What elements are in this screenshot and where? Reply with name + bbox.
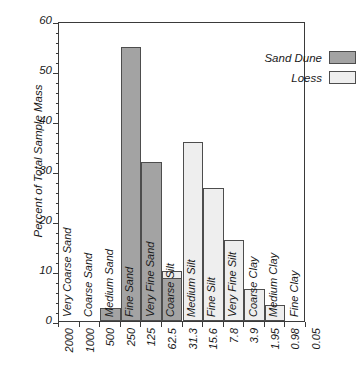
y-tick-minor	[56, 153, 60, 154]
legend-label-sand-dune: Sand Dune	[264, 52, 322, 64]
x-tick-label-250: 250	[125, 328, 137, 346]
y-tick-minor	[56, 213, 60, 214]
category-label-very-fine-silt: Very Fine Silt	[226, 252, 238, 317]
y-tick-minor	[56, 203, 60, 204]
y-tick-minor	[56, 103, 60, 104]
x-tick-label-2000: 2000	[63, 328, 75, 352]
y-tick-minor	[56, 33, 60, 34]
y-tick-major-40	[53, 123, 59, 124]
y-tick-minor	[56, 113, 60, 114]
x-tick-label-31.3: 31.3	[187, 328, 199, 349]
legend-label-loess: Loess	[291, 72, 322, 84]
y-tick-minor	[56, 43, 60, 44]
x-tick-label-7.8: 7.8	[228, 328, 240, 343]
y-axis-tick-labels: 0102030405060	[16, 22, 52, 322]
x-tick-label-125: 125	[145, 328, 157, 346]
y-tick-minor	[56, 163, 60, 164]
x-tick-label-62.5: 62.5	[166, 328, 178, 349]
legend-swatch-sand-dune	[329, 51, 356, 64]
y-tick-minor	[56, 303, 60, 304]
category-label-fine-sand: Fine Sand	[123, 267, 135, 317]
category-label-coarse-clay: Coarse Clay	[247, 256, 259, 317]
y-tick-minor	[56, 313, 60, 314]
x-tick-label-15.6: 15.6	[207, 328, 219, 349]
y-tick-minor	[56, 53, 60, 54]
y-tick-label-10: 10	[18, 264, 52, 276]
category-label-very-coarse-sand: Very Coarse Sand	[61, 228, 73, 317]
y-tick-minor	[56, 233, 60, 234]
category-label-medium-silt: Medium Silt	[185, 260, 197, 317]
y-tick-major-10	[53, 273, 59, 274]
y-tick-minor	[56, 293, 60, 294]
legend-item-sand-dune: Sand Dune	[256, 51, 356, 64]
y-tick-minor	[56, 143, 60, 144]
legend: Sand Dune Loess	[256, 45, 360, 98]
legend-swatch-loess	[329, 71, 356, 84]
y-tick-minor	[56, 183, 60, 184]
x-axis-tick-labels: 2000100050025012562.531.315.67.83.91.950…	[58, 326, 305, 376]
y-tick-label-0: 0	[18, 314, 52, 326]
y-tick-major-60	[53, 23, 59, 24]
y-tick-label-40: 40	[18, 114, 52, 126]
category-label-coarse-silt: Coarse Silt	[164, 263, 176, 317]
y-tick-minor	[56, 253, 60, 254]
y-tick-minor	[56, 93, 60, 94]
category-label-coarse-sand: Coarse Sand	[82, 253, 94, 317]
x-tick-label-3.9: 3.9	[248, 328, 260, 343]
x-tick-label-500: 500	[104, 328, 116, 346]
category-label-medium-sand: Medium Sand	[103, 249, 115, 317]
x-tick-label-0.98: 0.98	[289, 328, 301, 349]
category-label-very-fine-sand: Very Fine Sand	[144, 242, 156, 317]
legend-item-loess: Loess	[256, 71, 356, 84]
y-tick-label-30: 30	[18, 164, 52, 176]
y-tick-minor	[56, 83, 60, 84]
y-tick-minor	[56, 193, 60, 194]
y-tick-label-60: 60	[18, 14, 52, 26]
y-tick-major-20	[53, 223, 59, 224]
x-tick-0.05	[305, 322, 306, 327]
x-tick-label-1.95: 1.95	[269, 328, 281, 349]
y-tick-label-50: 50	[18, 64, 52, 76]
y-tick-minor	[56, 243, 60, 244]
category-label-fine-clay: Fine Clay	[288, 271, 300, 317]
y-tick-minor	[56, 263, 60, 264]
category-label-medium-clay: Medium Clay	[267, 253, 279, 317]
x-tick-label-1000: 1000	[84, 328, 96, 352]
y-tick-minor	[56, 283, 60, 284]
y-tick-major-50	[53, 73, 59, 74]
plot-area: Very Coarse SandCoarse SandMedium SandFi…	[58, 22, 305, 322]
x-tick-label-0.05: 0.05	[310, 328, 322, 349]
y-tick-label-20: 20	[18, 214, 52, 226]
y-tick-minor	[56, 133, 60, 134]
category-label-fine-silt: Fine Silt	[205, 277, 217, 317]
y-tick-major-30	[53, 173, 59, 174]
y-tick-minor	[56, 63, 60, 64]
